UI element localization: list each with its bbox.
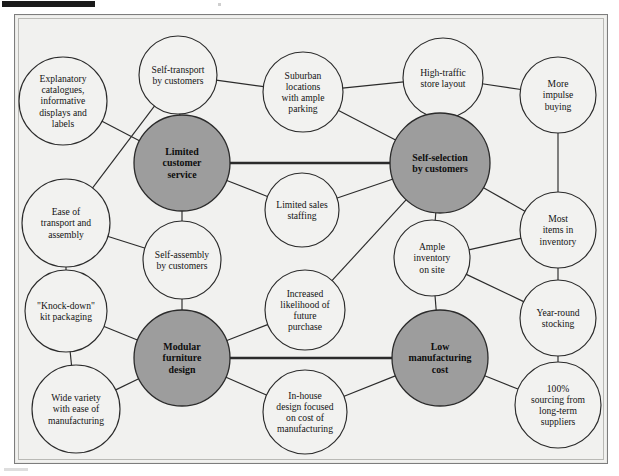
edge-suburban-locations--self-selection-by-customers (338, 110, 396, 140)
edge-low-manufacturing-cost--sourcing-from-long-term-suppliers (484, 376, 518, 390)
node-label-high-traffic-store-layout: High-trafficstore layout (420, 67, 466, 89)
edge-self-selection-by-customers--most-items-in-inventory (483, 187, 525, 211)
node-label-limited-customer-service: Limitedcustomerservice (163, 146, 203, 180)
edge-explanatory-catalogues--limited-customer-service (102, 121, 140, 141)
node-label-knock-down-kit-packaging: "Knock-down"kit packaging (37, 300, 95, 322)
edge-increased-likelihood-of-future-purchase--modular-furniture-design (226, 324, 268, 340)
page-root: Explanatorycatalogues,informativedisplay… (0, 0, 619, 476)
node-increased-likelihood-of-future-purchase[interactable]: Increasedlikelihood offuturepurchase (265, 270, 345, 350)
node-low-manufacturing-cost[interactable]: Lowmanufacturingcost (392, 310, 488, 406)
edge-ample-inventory-on-site--year-round-stocking (466, 274, 524, 302)
edge-high-traffic-store-layout--more-impulse-buying (482, 84, 521, 90)
edge-knock-down-kit-packaging--modular-furniture-design (104, 326, 138, 340)
node-ease-of-transport-and-assembly[interactable]: Ease oftransport andassembly (22, 179, 110, 267)
node-limited-sales-staffing[interactable]: Limited salesstaffing (265, 173, 339, 247)
scan-speck-bottom (4, 468, 28, 471)
node-label-self-assembly-by-customers: Self-assemblyby customers (155, 249, 210, 271)
node-label-wide-variety-with-ease-of-manufacturing: Wide varietywith ease ofmanufacturing (48, 392, 104, 425)
node-label-year-round-stocking: Year-roundstocking (536, 307, 579, 329)
edge-modular-furniture-design--in-house-design-focused-on-cost (225, 377, 267, 395)
node-wide-variety-with-ease-of-manufacturing[interactable]: Wide varietywith ease ofmanufacturing (32, 365, 120, 453)
edge-modular-furniture-design--wide-variety-with-ease-of-manufacturing (115, 379, 139, 391)
edge-limited-sales-staffing--self-selection-by-customers (337, 179, 394, 198)
edge-limited-customer-service--limited-sales-staffing (226, 180, 268, 196)
node-label-self-selection-by-customers: Self-selectionby customers (412, 152, 468, 175)
node-in-house-design-focused-on-cost[interactable]: In-housedesign focusedon cost ofmanufact… (263, 370, 347, 454)
node-suburban-locations[interactable]: Suburbanlocationswith ampleparking (263, 52, 343, 132)
node-self-assembly-by-customers[interactable]: Self-assemblyby customers (143, 221, 221, 299)
node-more-impulse-buying[interactable]: Moreimpulsebuying (520, 57, 596, 133)
activity-system-diagram: Explanatorycatalogues,informativedisplay… (14, 14, 606, 462)
node-self-selection-by-customers[interactable]: Self-selectionby customers (390, 113, 490, 213)
node-explanatory-catalogues[interactable]: Explanatorycatalogues,informativedisplay… (19, 57, 107, 145)
edge-self-selection-by-customers--ample-inventory-on-site (435, 212, 436, 220)
edge-suburban-locations--high-traffic-store-layout (342, 82, 403, 88)
node-self-transport-by-customers[interactable]: Self-transportby customers (139, 36, 217, 114)
nodes-layer: Explanatorycatalogues,informativedisplay… (19, 36, 601, 454)
node-modular-furniture-design[interactable]: Modularfurnituredesign (134, 310, 230, 406)
edge-ample-inventory-on-site--low-manufacturing-cost (435, 295, 436, 310)
edge-ample-inventory-on-site--most-items-in-inventory (469, 238, 522, 250)
edge-ease-of-transport-and-assembly--self-assembly-by-customers (107, 236, 145, 248)
scan-speck-top (218, 3, 221, 6)
edge-self-transport-by-customers--suburban-locations (216, 80, 264, 86)
node-most-items-in-inventory[interactable]: Mostitems ininventory (520, 192, 596, 268)
top-marker-bar (2, 1, 95, 7)
node-year-round-stocking[interactable]: Year-roundstocking (520, 280, 596, 356)
node-knock-down-kit-packaging[interactable]: "Knock-down"kit packaging (25, 270, 107, 352)
node-sourcing-from-long-term-suppliers[interactable]: 100%sourcing fromlong-termsuppliers (515, 362, 601, 448)
node-label-self-transport-by-customers: Self-transportby customers (152, 64, 205, 86)
edge-knock-down-kit-packaging--wide-variety-with-ease-of-manufacturing (70, 351, 71, 365)
edge-in-house-design-focused-on-cost--low-manufacturing-cost (344, 376, 396, 397)
node-limited-customer-service[interactable]: Limitedcustomerservice (134, 115, 230, 211)
node-ample-inventory-on-site[interactable]: Ampleinventoryon site (394, 220, 470, 296)
node-high-traffic-store-layout[interactable]: High-trafficstore layout (403, 38, 483, 118)
